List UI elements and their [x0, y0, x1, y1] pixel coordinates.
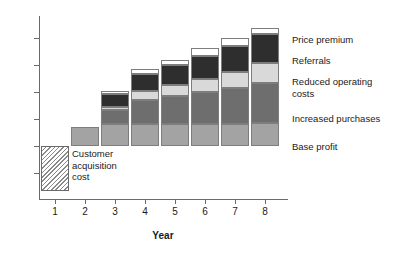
x-axis-tick-label: 3 [104, 206, 126, 217]
legend-label-reduced-operating-costs: Reduced operating costs [292, 76, 372, 99]
x-axis-tick-label: 6 [194, 206, 216, 217]
x-axis-tick [85, 200, 86, 204]
x-axis-tick [205, 200, 206, 204]
bar-year-6 [191, 48, 219, 146]
segment-increased-purchases [191, 92, 219, 124]
segment-reduced-operating-costs [161, 85, 189, 96]
segment-price-premium [221, 38, 249, 46]
segment-base-profit [101, 124, 129, 146]
legend-label-price-premium: Price premium [292, 34, 353, 46]
x-axis-tick-label: 7 [224, 206, 246, 217]
x-axis-tick-label: 8 [254, 206, 276, 217]
segment-price-premium [191, 48, 219, 56]
bar-year-5 [161, 60, 189, 146]
bar-year-2 [71, 127, 99, 146]
bar-year-8 [251, 28, 279, 146]
segment-referrals [221, 46, 249, 72]
segment-referrals [251, 34, 279, 63]
segment-referrals [191, 56, 219, 79]
bar-year-7 [221, 38, 249, 146]
segment-base-profit [71, 127, 99, 146]
bar-year-3 [101, 91, 129, 146]
x-axis-tick [235, 200, 236, 204]
x-axis-tick-label: 1 [44, 206, 66, 217]
x-axis-tick [145, 200, 146, 204]
segment-referrals [161, 65, 189, 85]
segment-reduced-operating-costs [221, 72, 249, 88]
bar-customer-acquisition-cost [41, 146, 69, 191]
bar-year-4 [131, 69, 159, 146]
x-axis-tick-label: 5 [164, 206, 186, 217]
segment-increased-purchases [221, 88, 249, 124]
segment-increased-purchases [101, 110, 129, 124]
segment-reduced-operating-costs [251, 63, 279, 83]
segment-base-profit [161, 124, 189, 146]
legend-label-base-profit: Base profit [292, 141, 337, 153]
segment-reduced-operating-costs [191, 79, 219, 92]
segment-base-profit [191, 124, 219, 146]
segment-increased-purchases [161, 96, 189, 124]
segment-increased-purchases [131, 100, 159, 124]
segment-increased-purchases [251, 83, 279, 123]
x-axis-tick [55, 200, 56, 204]
chart-container: Customer profit [0, 0, 393, 253]
x-axis-tick-label: 2 [74, 206, 96, 217]
segment-base-profit [221, 124, 249, 146]
segment-reduced-operating-costs [131, 91, 159, 100]
x-axis-tick [115, 200, 116, 204]
segment-base-profit [131, 124, 159, 146]
segment-referrals [101, 94, 129, 107]
x-axis-tick [175, 200, 176, 204]
customer-acquisition-cost-annotation: Customer acquisition cost [72, 148, 117, 183]
x-axis-title: Year [38, 230, 288, 241]
x-axis-tick [265, 200, 266, 204]
x-axis-tick-label: 4 [134, 206, 156, 217]
legend-label-referrals: Referrals [292, 55, 331, 67]
legend-label-increased-purchases: Increased purchases [292, 113, 380, 125]
segment-referrals [131, 74, 159, 91]
segment-base-profit [251, 123, 279, 146]
